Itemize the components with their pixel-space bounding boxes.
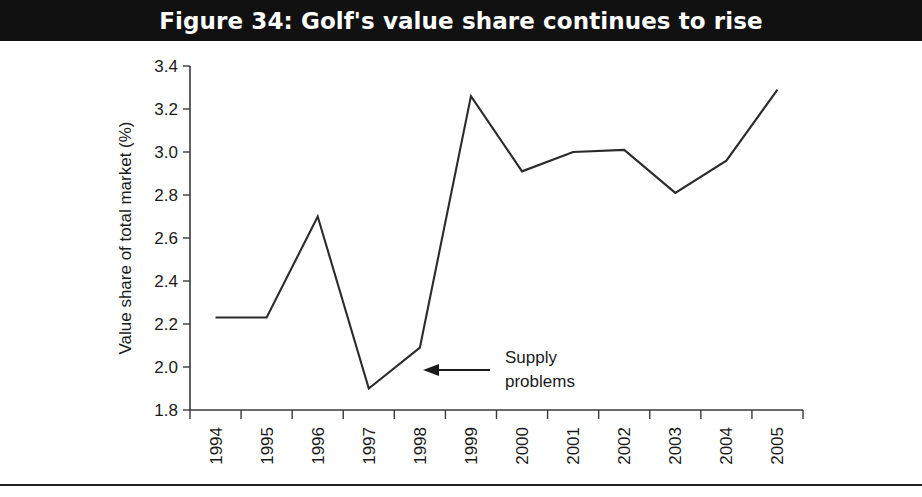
y-axis-tick-label: 2.8 — [154, 186, 178, 205]
figure-title: Figure 34: Golf's value share continues … — [159, 8, 763, 34]
x-axis-tick-label: 2004 — [717, 427, 736, 465]
figure-container: Figure 34: Golf's value share continues … — [0, 0, 922, 497]
annotation-label: problems — [505, 372, 575, 391]
x-axis-tick-label: 1996 — [309, 427, 328, 465]
y-axis-tick-label: 3.2 — [154, 100, 178, 119]
x-axis-tick-label: 2000 — [513, 427, 532, 465]
y-axis-tick-label: 3.4 — [154, 57, 178, 76]
y-axis-tick-label: 2.4 — [154, 272, 178, 291]
x-axis-tick-label: 1997 — [360, 427, 379, 465]
annotation-arrow-head — [423, 364, 439, 376]
figure-title-banner: Figure 34: Golf's value share continues … — [0, 0, 922, 41]
x-axis-tick-label: 1998 — [411, 427, 430, 465]
x-axis-tick-label: 2005 — [768, 427, 787, 465]
line-chart: 1.82.02.22.42.62.83.03.23.4Value share o… — [0, 41, 922, 485]
x-axis-tick-label: 2003 — [666, 427, 685, 465]
data-series-group — [216, 90, 778, 389]
chart-plot-area: 1.82.02.22.42.62.83.03.23.4Value share o… — [0, 41, 922, 485]
y-axis-title: Value share of total market (%) — [116, 121, 135, 354]
x-axis-tick-label: 2001 — [564, 427, 583, 465]
x-axis-tick-label: 1994 — [207, 427, 226, 465]
x-axis-tick-label: 1999 — [462, 427, 481, 465]
x-axis: 1994199519961997199819992000200120022003… — [190, 410, 803, 465]
x-axis-tick-label: 2002 — [615, 427, 634, 465]
y-axis-tick-label: 2.6 — [154, 229, 178, 248]
y-axis-tick-label: 3.0 — [154, 143, 178, 162]
y-axis-tick-label: 2.0 — [154, 358, 178, 377]
y-axis-tick-label: 1.8 — [154, 401, 178, 420]
data-series-line — [216, 90, 778, 389]
x-axis-tick-label: 1995 — [258, 427, 277, 465]
annotation-group: Supplyproblems — [423, 348, 575, 391]
footer-divider — [0, 484, 922, 486]
annotation-label: Supply — [505, 348, 557, 367]
y-axis: 1.82.02.22.42.62.83.03.23.4Value share o… — [116, 57, 190, 420]
y-axis-tick-label: 2.2 — [154, 315, 178, 334]
